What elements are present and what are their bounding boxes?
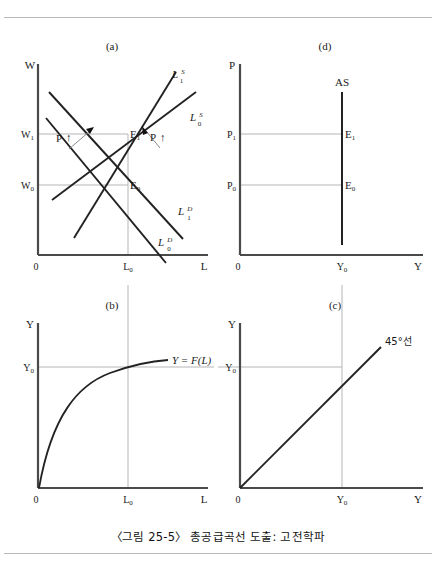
panel-d-y-axis-label: P	[229, 59, 235, 71]
panel-c-x-axis-label: Y	[414, 493, 422, 505]
panel-b-x-axis-label: L	[201, 493, 208, 505]
panel-b-plot: (b) Y = F(L) Y L Y0 L0 0	[0, 285, 218, 520]
panel-a-ld0-sub: 0	[167, 245, 171, 253]
svg-text:E0: E0	[130, 179, 141, 193]
panel-a-labor-supply-0-curve	[52, 92, 196, 200]
panel-a-labor-demand-0-label: LD0	[157, 236, 172, 253]
panel-a-x-axis-label: L	[201, 260, 208, 272]
panel-d-x-tick-y0: Y0	[337, 261, 348, 274]
panel-a-equilibrium-e0: E0	[130, 179, 141, 193]
panel-d-origin-label: 0	[236, 261, 241, 272]
panel-d-equilibrium-e1: E1	[345, 128, 356, 142]
panel-a-ls0-sub: 0	[198, 120, 202, 128]
panel-b-curve-label: Y = F(L)	[172, 354, 212, 367]
svg-text:E1: E1	[130, 128, 141, 142]
panel-c-line-label: 45°선	[385, 336, 412, 347]
panel-a-y-tick-w0: W0	[21, 180, 34, 193]
panel-a-ld1-sup: D	[186, 205, 192, 213]
panel-c-y-tick-y0: Y0	[225, 362, 236, 375]
panel-a-ls0-base: L	[189, 111, 196, 123]
panel-a-e0-sub: 0	[137, 185, 141, 193]
panel-a-origin-label: 0	[34, 261, 39, 272]
panel-d-as-label: AS	[335, 76, 349, 88]
panel-a-shift-right-label: P	[150, 131, 156, 143]
panel-a-ld0-base: L	[157, 236, 164, 248]
panel-a-labor-demand-1-curve	[49, 92, 183, 239]
panel-a-labor-demand-1-label: LD1	[177, 205, 192, 222]
panel-a-y-axis-label: W	[25, 59, 36, 71]
panel-a: (a) P ↑ P	[0, 30, 218, 280]
panel-d: (d) AS E1 E0 P Y P1	[218, 30, 436, 280]
panel-a-shift-left-label: P	[56, 132, 62, 144]
panel-b-y-tick-y0: Y0	[23, 362, 34, 375]
panel-a-x-tick-l0: L0	[123, 261, 133, 274]
panel-a-ls0-sup: S	[199, 111, 203, 119]
panel-b-origin-label: 0	[34, 494, 39, 505]
panel-d-equilibrium-e0: E0	[345, 179, 356, 193]
panel-c-y-axis-label: Y	[228, 318, 236, 330]
panel-c-title: (c)	[329, 299, 342, 312]
panel-a-labor-supply-1-label: LS1	[171, 68, 185, 85]
panel-c-plot: (c) 45°선 Y Y Y0 Y0 0	[218, 285, 436, 520]
panel-a-e1-sub: 1	[137, 134, 141, 142]
svg-text:LS1: LS1	[171, 68, 185, 85]
svg-text:LS0: LS0	[189, 111, 203, 128]
svg-text:LD1: LD1	[177, 205, 192, 222]
panel-b-x-tick-l0: L0	[123, 494, 133, 507]
panel-d-y-tick-p0: P0	[227, 180, 237, 193]
panel-c: (c) 45°선 Y Y Y0 Y0 0	[218, 285, 436, 520]
panel-a-shift-annotation-left: P ↑	[56, 127, 94, 149]
panel-a-ls1-sub: 1	[180, 77, 184, 85]
top-divider-rule	[4, 17, 432, 18]
panel-a-title: (a)	[106, 40, 119, 53]
panel-d-title: (d)	[319, 40, 332, 53]
panel-c-x-tick-y0: Y0	[337, 494, 348, 507]
panel-a-ls1-sup: S	[181, 68, 185, 76]
panel-d-plot: (d) AS E1 E0 P Y P1	[218, 30, 436, 280]
panel-a-plot: (a) P ↑ P	[0, 30, 218, 280]
panel-d-x-axis-label: Y	[414, 260, 422, 272]
panel-a-shift-left-arrow: ↑	[66, 131, 72, 143]
panel-a-shift-right-arrow: ↑	[160, 131, 166, 143]
panel-d-y-tick-p1: P1	[227, 129, 237, 142]
panel-a-y-tick-w1: W1	[21, 129, 34, 142]
panel-a-ld1-base: L	[177, 205, 184, 217]
panel-b: (b) Y = F(L) Y L Y0 L0 0	[0, 285, 218, 520]
panel-b-production-function-curve	[39, 360, 168, 488]
panel-b-y-axis-label: Y	[26, 318, 34, 330]
bottom-divider-rule	[4, 553, 432, 554]
panel-a-ld1-sub: 1	[187, 214, 191, 222]
figure-caption: 〈그림 25-5〉 총공급곡선 도출: 고전학파	[0, 528, 436, 544]
panel-c-origin-label: 0	[236, 494, 241, 505]
panel-a-ld0-sup: D	[166, 236, 172, 244]
figure-page: (a) P ↑ P	[0, 0, 436, 568]
panel-c-45-degree-line	[240, 347, 381, 488]
panel-a-equilibrium-e1: E1	[130, 128, 141, 142]
svg-text:LD0: LD0	[157, 236, 172, 253]
panel-a-ls1-base: L	[171, 68, 178, 80]
panel-a-labor-supply-0-label: LS0	[189, 111, 203, 128]
panel-b-title: (b)	[106, 299, 119, 312]
